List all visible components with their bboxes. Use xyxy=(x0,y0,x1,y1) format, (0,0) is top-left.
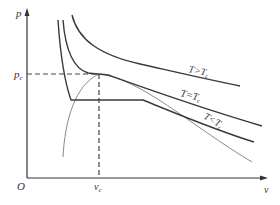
x-axis-label: v xyxy=(264,184,269,195)
y-axis-arrow-icon xyxy=(25,8,30,16)
pv-diagram: p v O pc vc T>Tc T=Tc T<Tc xyxy=(0,0,280,205)
x-axis-arrow-icon xyxy=(260,176,268,181)
origin-label: O xyxy=(17,180,25,192)
coexistence-curve xyxy=(63,74,252,162)
isotherm-below-critical xyxy=(58,20,254,142)
vc-label: vc xyxy=(94,181,102,194)
y-axis-label: p xyxy=(15,7,22,19)
axes xyxy=(25,8,269,181)
critical-guides xyxy=(27,74,99,178)
isotherm-critical xyxy=(63,20,262,126)
pc-label: pc xyxy=(13,68,24,82)
